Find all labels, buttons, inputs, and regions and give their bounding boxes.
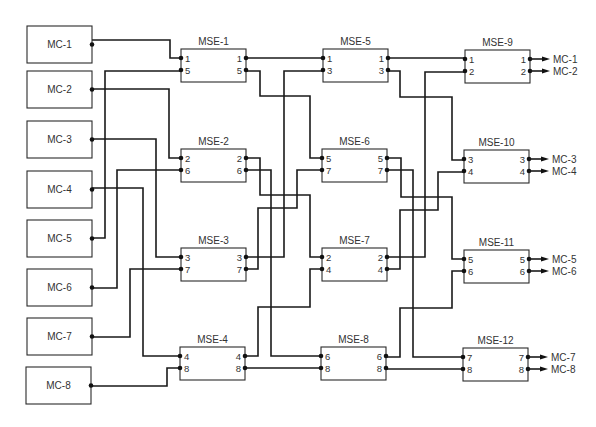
wires [91,40,465,386]
output-port-dot [244,168,249,173]
input-module-mc-6: MC-6 [27,269,94,306]
output-port-dot [386,56,391,61]
output-port-dot [385,267,390,272]
output-port-label: 2 [237,153,242,164]
output-port-label: 8 [519,364,524,375]
module-label: MC-3 [47,134,72,145]
switch-element-mse-10: MSE-103344 [462,137,532,183]
connection-wire [92,269,181,337]
module-label: MC-7 [47,331,72,342]
output-label: MC-4 [552,166,577,177]
output-port-dot [243,366,248,371]
input-port-label: 3 [185,252,190,263]
arrow-right-icon [542,68,550,73]
output-label: MC-8 [551,364,576,375]
output-port-label: 6 [520,266,525,277]
input-port-label: 2 [185,153,190,164]
connection-wire [386,271,464,357]
output-port-dot [243,354,248,359]
output-port-label: 3 [520,154,525,165]
switch-element-mse-4: MSE-44488 [178,334,248,380]
module-label: MC-8 [46,380,71,391]
input-port-label: 1 [469,54,474,65]
input-port-label: 2 [326,252,331,263]
input-port-dot [463,69,468,74]
switch-element-mse-1: MSE-11155 [179,36,249,82]
input-port-dot [461,355,466,360]
module-label: MC-2 [47,84,72,95]
connection-wire [92,40,181,58]
switch-element-mse-3: MSE-33377 [179,235,249,281]
output-port-dot [244,255,249,260]
output-port-label: 2 [521,66,526,77]
input-module-mc-7: MC-7 [27,318,94,355]
switch-element-mse-9: MSE-91122 [463,37,533,83]
switch-label: MSE-10 [478,137,515,148]
output-port-label: 5 [520,254,525,265]
switch-label: MSE-2 [198,136,229,147]
arrow-right-icon [541,168,549,173]
input-port-label: 4 [326,264,331,275]
output-port-label: 3 [237,252,242,263]
output-port-dot [386,68,391,73]
input-port-label: 2 [469,66,474,77]
output-port-label: 4 [236,351,241,362]
output-port-dot [90,285,95,290]
switch-label: MSE-11 [479,237,515,248]
output-port-label: 1 [521,54,526,65]
output-port-dot [90,137,95,142]
output-label: MC-5 [552,254,577,265]
input-port-dot [179,255,184,260]
switch-element-mse-6: MSE-65577 [320,136,390,182]
connection-wire [245,269,322,356]
output-port-label: 7 [378,165,383,176]
input-port-dot [179,156,184,161]
multistage-interconnection-network: MC-1MC-2MC-3MC-4MC-5MC-6MC-7MC-8MSE-1115… [0,0,596,427]
output-port-dot [244,68,249,73]
input-port-label: 6 [325,351,330,362]
arrow-right-icon [541,268,549,273]
input-port-label: 5 [185,65,190,76]
output-port-dot [244,267,249,272]
output-port-dot [90,236,95,241]
switch-label: MSE-3 [198,235,229,246]
arrow-right-icon [541,156,549,161]
connection-wire [91,368,180,386]
input-port-dot [179,68,184,73]
switch-label: MSE-4 [197,334,228,345]
input-port-label: 8 [184,363,189,374]
input-port-dot [179,168,184,173]
input-port-label: 6 [185,165,190,176]
switch-label: MSE-9 [482,37,513,48]
input-port-dot [179,56,184,61]
output-port-dot [385,255,390,260]
output-port-label: 3 [379,65,384,76]
switch-element-mse-2: MSE-22266 [179,136,249,182]
output-port-dot [385,168,390,173]
input-port-label: 8 [467,364,472,375]
switch-element-mse-11: MSE-115566 [462,237,532,283]
network-diagram: MC-1MC-2MC-3MC-4MC-5MC-6MC-7MC-8MSE-1115… [0,0,596,427]
output-port-dot [90,42,95,47]
output-port-label: 5 [378,153,383,164]
switch-element-mse-7: MSE-72244 [320,235,390,281]
input-port-label: 7 [185,264,190,275]
output-port-dot [384,366,389,371]
arrow-right-icon [541,256,549,261]
input-port-label: 1 [185,53,190,64]
module-label: MC-5 [47,233,72,244]
switch-label: MSE-7 [339,235,370,246]
input-port-dot [320,255,325,260]
input-port-label: 7 [467,352,472,363]
input-module-mc-2: MC-2 [27,71,94,108]
input-port-label: 8 [325,363,330,374]
output-port-label: 1 [237,53,242,64]
input-port-dot [178,354,183,359]
input-module-mc-8: MC-8 [26,367,93,404]
output-label: MC-1 [553,54,578,65]
input-module-mc-3: MC-3 [27,121,94,158]
input-port-dot [462,257,467,262]
input-port-label: 4 [468,166,473,177]
output-port-label: 7 [519,352,524,363]
input-port-dot [461,367,466,372]
